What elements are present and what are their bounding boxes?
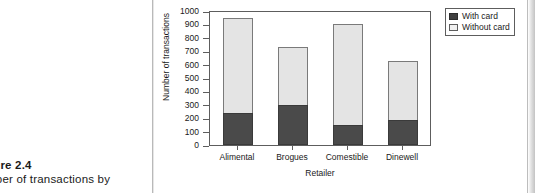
- caption-column: gure 2.4 mber of transactions by: [0, 0, 152, 193]
- bar-segment-with-card: [333, 125, 363, 145]
- x-tick-mark: [402, 146, 403, 150]
- book-page: gure 2.4 mber of transactions by Number …: [0, 0, 535, 193]
- y-tick-label: 1000: [173, 7, 199, 16]
- bar-segment-with-card: [223, 113, 253, 145]
- legend-swatch-with-card: [449, 13, 458, 20]
- legend-label-without-card: Without card: [462, 23, 510, 32]
- figure-caption-text: mber of transactions by: [0, 172, 166, 187]
- chart-legend: With card Without card: [445, 8, 515, 36]
- bar-segment-without-card: [388, 61, 418, 119]
- y-tick-label: 100: [173, 128, 199, 137]
- bar-segment-without-card: [223, 18, 253, 112]
- figure-number: gure 2.4: [0, 159, 166, 172]
- bar-dinewell: [388, 61, 418, 145]
- x-tick-mark: [237, 146, 238, 150]
- plot-area: [209, 11, 431, 146]
- bar-group: [210, 12, 430, 145]
- bar-brogues: [278, 47, 308, 145]
- y-tick-label: 600: [173, 61, 199, 70]
- bar-comestible: [333, 24, 363, 145]
- x-tick-mark: [347, 146, 348, 150]
- page-edge-shading: [528, 0, 535, 193]
- x-tick-label: Dinewell: [367, 152, 437, 162]
- bar-segment-with-card: [278, 105, 308, 145]
- y-tick-label: 800: [173, 34, 199, 43]
- y-tick-label: 0: [173, 141, 199, 150]
- legend-swatch-without-card: [449, 24, 458, 31]
- y-tick-label: 200: [173, 114, 199, 123]
- figure-caption: gure 2.4 mber of transactions by: [0, 159, 166, 187]
- y-tick-label: 500: [173, 74, 199, 83]
- bar-segment-without-card: [333, 24, 363, 125]
- bar-segment-with-card: [388, 120, 418, 145]
- y-tick-label: 900: [173, 20, 199, 29]
- y-tick-label: 400: [173, 87, 199, 96]
- y-tick-label: 300: [173, 101, 199, 110]
- chart-figure: Number of transactions 01002003004005006…: [154, 0, 528, 193]
- x-axis-title: Retailer: [209, 168, 431, 178]
- legend-item-without-card: Without card: [449, 22, 510, 33]
- bar-segment-without-card: [278, 47, 308, 105]
- legend-item-with-card: With card: [449, 11, 510, 22]
- legend-label-with-card: With card: [462, 12, 498, 21]
- x-tick-mark: [292, 146, 293, 150]
- y-tick-label: 700: [173, 47, 199, 56]
- bar-alimental: [223, 18, 253, 145]
